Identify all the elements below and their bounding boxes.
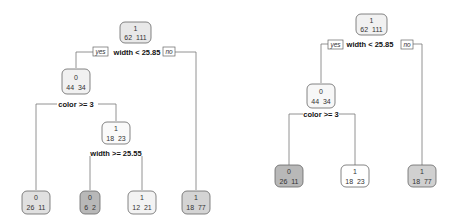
node-class: 1 [420, 168, 424, 175]
yes-label: yes [94, 48, 106, 56]
split-label-n2: color >= 3 [58, 100, 93, 109]
node-class: 1 [370, 17, 374, 24]
no-label: no [403, 41, 411, 48]
tree-leaf-4: 1 18 77 [182, 191, 210, 214]
node-class: 0 [319, 88, 323, 95]
full-tree: 1 62 111 yes width < 25.85 no 0 44 34 co… [22, 22, 210, 214]
node-counts: 12 21 [132, 204, 152, 211]
tree-node-root: 1 62 111 [356, 14, 387, 35]
edge-n2-no [98, 104, 116, 121]
edge-root-yes [321, 44, 328, 83]
node-counts: 62 111 [360, 26, 382, 33]
split-root: yes width < 25.85 no [328, 40, 413, 49]
node-counts: 44 34 [66, 84, 86, 91]
node-class: 1 [140, 194, 144, 201]
yes-label: yes [329, 41, 341, 49]
node-class: 1 [114, 125, 118, 132]
edge-n2-yes [36, 104, 57, 190]
tree-leaf-1: 0 26 11 [275, 165, 303, 187]
tree-leaf-3: 1 12 21 [128, 191, 156, 214]
tree-leaf-3: 1 18 77 [408, 165, 436, 187]
node-counts: 62 111 [124, 34, 146, 41]
no-label: no [165, 48, 173, 55]
tree-node-n2: 0 44 34 [307, 84, 335, 108]
node-class: 1 [353, 168, 357, 175]
edge-root-no [401, 44, 422, 165]
node-class: 1 [134, 25, 138, 32]
edge-n2-no [339, 114, 355, 165]
edge-root-no [175, 52, 196, 190]
node-counts: 26 11 [27, 204, 46, 211]
node-counts: 6 2 [84, 204, 96, 211]
tree-node-root: 1 62 111 [120, 22, 151, 43]
tree-leaf-2: 1 18 23 [341, 165, 369, 187]
split-label: width < 25.85 [346, 40, 394, 49]
node-class: 0 [88, 194, 92, 201]
split-label: width < 25.85 [113, 48, 161, 57]
node-counts: 18 77 [186, 204, 206, 211]
split-label-n2: color >= 3 [303, 110, 338, 119]
node-class: 0 [287, 168, 291, 175]
node-class: 1 [194, 194, 198, 201]
tree-leaf-2: 0 6 2 [80, 191, 100, 214]
tree-leaf-1: 0 26 11 [22, 191, 50, 214]
tree-node-n3: 1 18 23 [102, 122, 130, 144]
edge-n2-yes [289, 114, 303, 165]
split-root: yes width < 25.85 no [93, 47, 175, 57]
node-counts: 18 23 [345, 178, 365, 185]
node-counts: 26 11 [280, 178, 299, 185]
tree-node-n2: 0 44 34 [62, 69, 90, 94]
pruned-tree: 1 62 111 yes width < 25.85 no 0 44 34 co… [275, 14, 436, 187]
node-class: 0 [34, 194, 38, 201]
node-counts: 18 23 [106, 135, 126, 142]
node-counts: 44 34 [311, 98, 331, 105]
split-label-n3: width >= 25.55 [89, 149, 141, 158]
node-class: 0 [74, 74, 78, 81]
node-counts: 18 77 [412, 178, 432, 185]
